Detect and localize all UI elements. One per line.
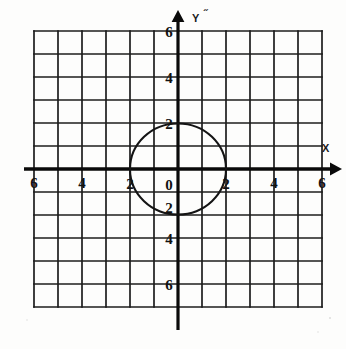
y-tick-labels: 6 4 2 2 4 6 (165, 24, 173, 293)
y-tick-label-pos4: 4 (165, 70, 173, 86)
x-tick-label-pos2: 2 (222, 176, 230, 192)
graph-canvas: Y X ˝ 6 4 2 2 4 6 6 4 2 2 4 6 0 (0, 0, 346, 349)
x-tick-label-neg2: 2 (126, 176, 134, 192)
y-tick-label-neg2: 2 (165, 200, 173, 216)
speck (26, 319, 27, 320)
axes (24, 10, 342, 330)
x-tick-label-pos4: 4 (270, 175, 278, 191)
x-tick-label-neg6: 6 (30, 175, 38, 191)
x-axis-arrowhead (330, 163, 342, 176)
y-tick-label-neg4: 4 (165, 231, 173, 247)
y-tick-label-pos6: 6 (165, 24, 173, 40)
y-tick-label-neg6: 6 (165, 277, 173, 293)
x-axis-label: X (322, 142, 330, 154)
speck (317, 331, 318, 332)
origin-label: 0 (165, 177, 173, 193)
y-axis-label: Y (192, 12, 200, 24)
speck (329, 317, 331, 319)
coordinate-graph-figure: Y X ˝ 6 4 2 2 4 6 6 4 2 2 4 6 0 (0, 0, 346, 349)
y-tick-label-pos2: 2 (165, 116, 173, 132)
stray-pen-mark: ˝ (203, 7, 209, 19)
x-tick-label-pos6: 6 (318, 175, 326, 191)
x-tick-label-neg4: 4 (78, 175, 86, 191)
y-axis-arrowhead (172, 10, 185, 22)
